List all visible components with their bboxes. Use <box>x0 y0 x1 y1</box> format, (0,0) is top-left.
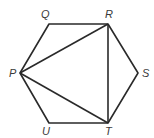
vertex-label-P: P <box>9 67 17 79</box>
vertex-label-T: T <box>105 125 113 137</box>
vertex-label-R: R <box>105 8 113 20</box>
hexagon-outline <box>20 24 138 123</box>
diagonal-PT <box>20 73 108 123</box>
hexagon-diagram: P Q R S T U <box>0 0 154 138</box>
vertex-label-U: U <box>42 125 50 137</box>
vertex-label-S: S <box>142 67 150 79</box>
vertex-label-Q: Q <box>41 8 50 20</box>
diagonal-PR <box>20 24 108 73</box>
